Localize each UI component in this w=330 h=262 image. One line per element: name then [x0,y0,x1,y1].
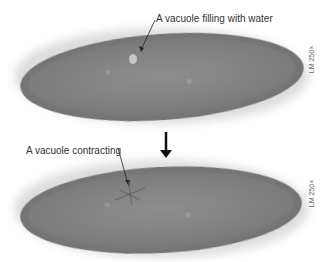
leader-arrowhead-top [139,46,144,52]
down-arrow-icon [160,132,172,158]
leader-line-bottom [118,148,128,184]
contractile-vacuole-top [129,54,137,64]
annotation-layer [0,0,330,262]
leader-arrowhead-bottom [125,180,130,186]
leader-line-top [141,20,155,50]
contractile-vacuole-bottom [115,180,145,205]
